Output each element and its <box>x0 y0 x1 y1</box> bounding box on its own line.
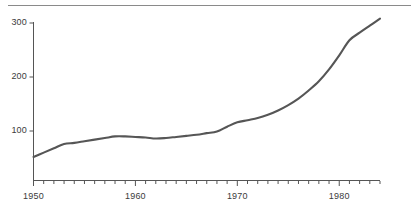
y-axis-ticks <box>30 23 34 131</box>
data-line-series-1 <box>34 19 381 157</box>
chart-figure: 100200300 1950196019701980 <box>0 0 419 216</box>
y-axis-tick-label: 100 <box>1 125 27 135</box>
x-axis-tick-label: 1970 <box>217 191 257 201</box>
x-axis-ticks <box>34 181 381 186</box>
data-series-group <box>34 19 381 157</box>
y-axis-tick-label: 200 <box>1 71 27 81</box>
x-axis-tick-label: 1950 <box>14 191 54 201</box>
x-axis-tick-label: 1980 <box>319 191 359 201</box>
y-axis-tick-label: 300 <box>1 17 27 27</box>
axes <box>30 22 381 186</box>
line-chart-plot <box>0 0 419 216</box>
x-axis-tick-label: 1960 <box>115 191 155 201</box>
